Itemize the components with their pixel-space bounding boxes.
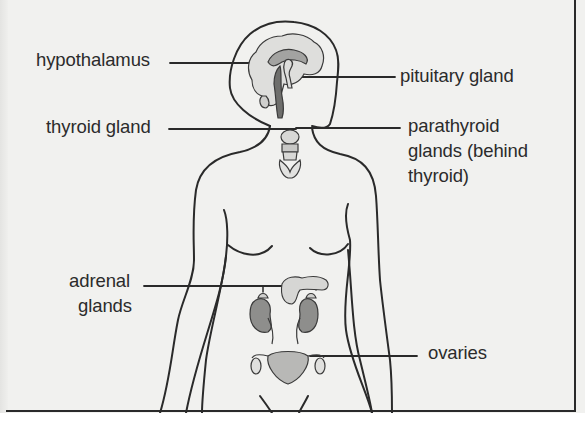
kidneys bbox=[250, 294, 318, 345]
diagram-page: hypothalamus pituitary gland thyroid gla… bbox=[0, 0, 585, 431]
right-breast bbox=[310, 244, 348, 254]
label-pituitary-gland: pituitary gland bbox=[400, 63, 514, 88]
left-ovary bbox=[251, 358, 261, 374]
right-leg-inner bbox=[299, 396, 308, 413]
page-bottom-margin bbox=[0, 413, 585, 431]
thyroid bbox=[279, 130, 300, 178]
right-inner-arm bbox=[348, 250, 372, 413]
label-adrenal-line2: glands bbox=[78, 293, 132, 318]
right-ovary bbox=[315, 358, 325, 374]
label-parathyroid-line3: thyroid) bbox=[408, 163, 469, 188]
label-parathyroid-line1: parathyroid bbox=[408, 113, 499, 138]
left-kidney bbox=[250, 299, 271, 333]
brain bbox=[249, 34, 324, 118]
left-inner-arm bbox=[186, 256, 226, 413]
left-leg-inner bbox=[260, 396, 272, 413]
uterus bbox=[268, 352, 309, 385]
label-hypothalamus: hypothalamus bbox=[36, 47, 150, 72]
right-torso-outline bbox=[345, 204, 372, 413]
label-parathyroid-line2: glands (behind bbox=[408, 138, 528, 163]
label-ovaries: ovaries bbox=[428, 340, 487, 365]
left-adrenal bbox=[258, 294, 268, 299]
right-adrenal bbox=[306, 294, 316, 299]
right-kidney bbox=[299, 299, 318, 333]
label-thyroid-gland: thyroid gland bbox=[46, 114, 151, 139]
left-breast bbox=[228, 245, 272, 255]
label-adrenal-line1: adrenal bbox=[69, 268, 130, 293]
